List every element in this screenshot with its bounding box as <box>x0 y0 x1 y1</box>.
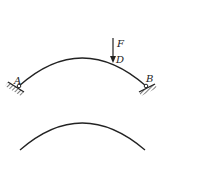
top-arch-curve <box>19 58 146 86</box>
label-f: F <box>116 38 125 49</box>
label-d: D <box>115 54 124 65</box>
top-arch: A B F D <box>5 38 157 96</box>
arch-diagram: A B F D <box>0 0 218 180</box>
support-b <box>139 84 157 96</box>
bottom-arch <box>20 123 145 150</box>
label-a: A <box>13 75 21 86</box>
label-b: B <box>145 73 153 84</box>
bottom-arch-curve <box>20 123 145 150</box>
